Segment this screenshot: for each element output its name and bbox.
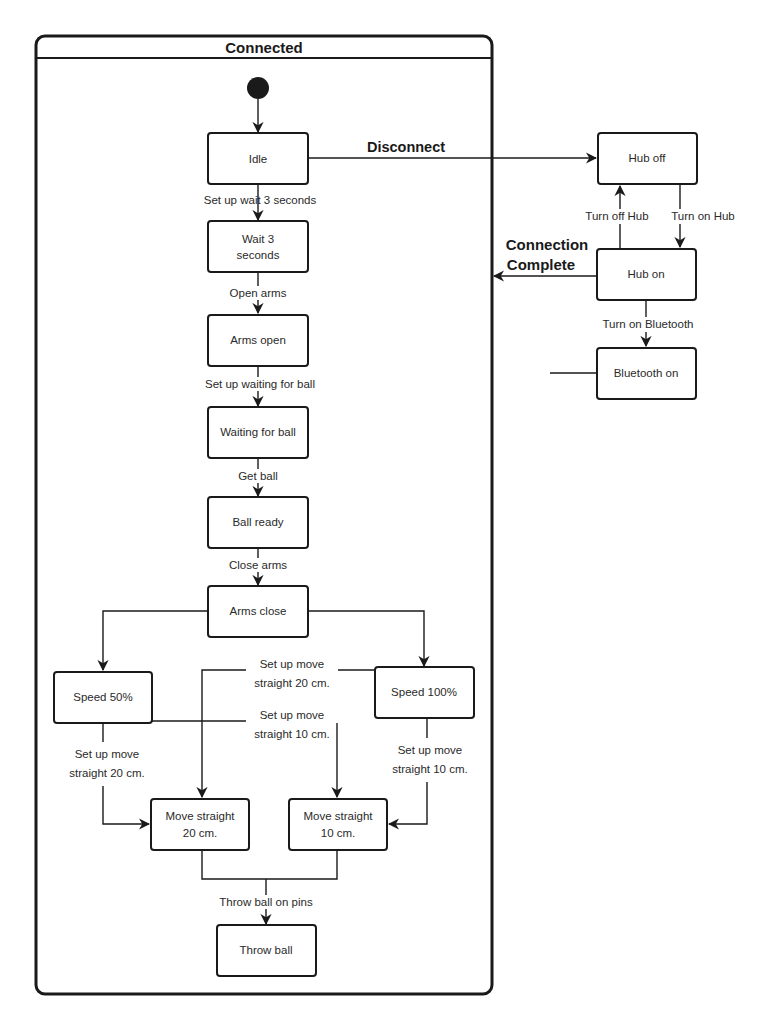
- transition-label-get-ball: Get ball: [238, 470, 278, 482]
- state-throw-ball-label: Throw ball: [239, 944, 292, 956]
- state-move20-label-line1: Move straight: [165, 810, 235, 822]
- transition-label-s50-10-line1: Set up move: [260, 709, 325, 721]
- state-waiting-for-ball[interactable]: Waiting for ball: [208, 407, 308, 458]
- state-hub-off[interactable]: Hub off: [598, 133, 697, 184]
- state-move10-label-line2: 10 cm.: [321, 827, 356, 839]
- state-idle[interactable]: Idle: [208, 133, 308, 184]
- transition-label-s50-20-line2: straight 20 cm.: [69, 767, 144, 779]
- state-move-straight-20[interactable]: Move straight 20 cm.: [151, 799, 249, 850]
- transition-label-s100-10-line2: straight 10 cm.: [392, 763, 467, 775]
- composite-state-title: Connected: [225, 39, 303, 56]
- state-speed-50[interactable]: Speed 50%: [54, 672, 152, 723]
- state-ball-ready-label: Ball ready: [232, 516, 283, 528]
- state-hub-off-label: Hub off: [629, 152, 667, 164]
- transition-label-s100-10-line1: Set up move: [398, 744, 463, 756]
- state-waiting-label: Waiting for ball: [220, 426, 296, 438]
- transition-label-turn-on-hub: Turn on Hub: [671, 210, 735, 222]
- state-speed100-label: Speed 100%: [391, 686, 457, 698]
- initial-state-node: [247, 77, 269, 99]
- state-speed50-label: Speed 50%: [73, 691, 132, 703]
- transition-label-throw-on-pins: Throw ball on pins: [219, 896, 313, 908]
- state-wait-3-seconds[interactable]: Wait 3 seconds: [208, 221, 308, 272]
- state-move-straight-10[interactable]: Move straight 10 cm.: [289, 799, 387, 850]
- state-hub-on[interactable]: Hub on: [597, 249, 696, 300]
- state-arms-close[interactable]: Arms close: [208, 586, 308, 637]
- transition-label-s100-20-line1: Set up move: [260, 658, 325, 670]
- state-arms-close-label: Arms close: [230, 605, 287, 617]
- state-bluetooth-on-label: Bluetooth on: [614, 367, 679, 379]
- transition-label-close-arms: Close arms: [229, 559, 287, 571]
- state-diagram: Connected Idle Set up wait 3 seconds Wai…: [0, 0, 767, 1018]
- state-idle-label: Idle: [249, 153, 268, 165]
- transition-label-turn-off-hub: Turn off Hub: [585, 210, 648, 222]
- state-arms-open-label: Arms open: [230, 334, 286, 346]
- transition-label-s50-10-line2: straight 10 cm.: [254, 728, 329, 740]
- transition-label-disconnect: Disconnect: [367, 139, 445, 155]
- transition-label-s50-20-line1: Set up move: [75, 748, 140, 760]
- state-arms-open[interactable]: Arms open: [208, 315, 308, 366]
- state-throw-ball[interactable]: Throw ball: [217, 925, 316, 976]
- state-speed-100[interactable]: Speed 100%: [375, 667, 474, 718]
- transition-label-turn-on-bluetooth: Turn on Bluetooth: [603, 318, 694, 330]
- transition-label-connection-complete-line1: Connection: [506, 236, 589, 253]
- state-move20-label-line2: 20 cm.: [183, 827, 218, 839]
- transition-label-open-arms: Open arms: [230, 287, 287, 299]
- state-move10-label-line1: Move straight: [303, 810, 373, 822]
- transition-label-setup-waiting: Set up waiting for ball: [205, 378, 315, 390]
- transition-label-s100-20-line2: straight 20 cm.: [254, 677, 329, 689]
- state-bluetooth-on[interactable]: Bluetooth on: [597, 348, 696, 399]
- state-ball-ready[interactable]: Ball ready: [208, 497, 308, 548]
- transition-label-connection-complete-line2: Complete: [507, 256, 575, 273]
- state-wait-label-line1: Wait 3: [242, 233, 274, 245]
- state-hub-on-label: Hub on: [627, 268, 664, 280]
- state-wait-label-line2: seconds: [237, 249, 280, 261]
- transition-label-setup-wait: Set up wait 3 seconds: [204, 194, 317, 206]
